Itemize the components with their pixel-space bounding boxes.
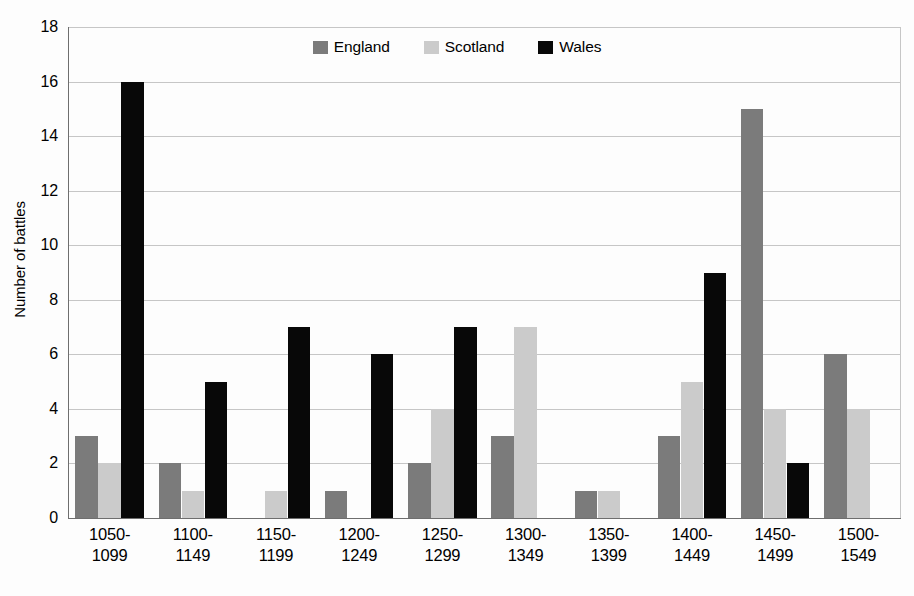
x-axis-ticks: 1050-10991100-11491150-11991200-12491250… — [68, 524, 900, 584]
bar-group — [567, 27, 650, 518]
bar-england-1300-1349[interactable] — [491, 436, 514, 518]
y-tick-label: 16 — [12, 73, 58, 91]
x-tick-line1: 1050- — [89, 525, 130, 543]
bar-england-1200-1249[interactable] — [325, 491, 348, 518]
x-tick-label: 1200-1249 — [318, 524, 401, 566]
y-tick-label: 4 — [12, 400, 58, 418]
bar-scotland-1100-1149[interactable] — [182, 491, 205, 518]
bar-group — [318, 27, 401, 518]
bar-scotland-1450-1499[interactable] — [764, 409, 787, 518]
bar-scotland-1050-1099[interactable] — [98, 463, 121, 518]
bar-scotland-1250-1299[interactable] — [431, 409, 454, 518]
bar-england-1400-1449[interactable] — [658, 436, 681, 518]
bar-scotland-1400-1449[interactable] — [681, 382, 704, 518]
bar-wales-1050-1099[interactable] — [121, 82, 144, 518]
y-tick-label: 10 — [12, 236, 58, 254]
x-tick-label: 1250-1299 — [401, 524, 484, 566]
x-tick-line1: 1400- — [671, 525, 712, 543]
x-tick-line2: 1149 — [151, 545, 234, 566]
bar-scotland-1350-1399[interactable] — [598, 491, 621, 518]
x-tick-line1: 1250- — [422, 525, 463, 543]
x-tick-label: 1350-1399 — [567, 524, 650, 566]
bar-wales-1150-1199[interactable] — [288, 327, 311, 518]
bar-england-1350-1399[interactable] — [575, 491, 598, 518]
bar-wales-1400-1449[interactable] — [704, 273, 727, 519]
x-tick-line1: 1500- — [838, 525, 879, 543]
y-tick-label: 8 — [12, 291, 58, 309]
bar-scotland-1500-1549[interactable] — [847, 409, 870, 518]
x-tick-line2: 1249 — [318, 545, 401, 566]
bar-group — [484, 27, 567, 518]
x-tick-label: 1400-1449 — [650, 524, 733, 566]
y-tick-label: 2 — [12, 454, 58, 472]
bar-wales-1450-1499[interactable] — [787, 463, 810, 518]
bar-wales-1250-1299[interactable] — [454, 327, 477, 518]
x-tick-line1: 1200- — [339, 525, 380, 543]
x-tick-label: 1150-1199 — [234, 524, 317, 566]
x-tick-line2: 1199 — [234, 545, 317, 566]
y-tick-label: 6 — [12, 345, 58, 363]
bar-england-1100-1149[interactable] — [159, 463, 182, 518]
x-tick-line2: 1349 — [484, 545, 567, 566]
x-tick-line2: 1449 — [650, 545, 733, 566]
bar-group — [68, 27, 151, 518]
bar-scotland-1300-1349[interactable] — [514, 327, 537, 518]
x-tick-line2: 1399 — [567, 545, 650, 566]
bar-group — [234, 27, 317, 518]
bar-group — [650, 27, 733, 518]
x-tick-line1: 1350- — [588, 525, 629, 543]
bar-england-1500-1549[interactable] — [824, 354, 847, 518]
y-tick-label: 12 — [12, 182, 58, 200]
x-tick-line1: 1450- — [755, 525, 796, 543]
x-tick-label: 1300-1349 — [484, 524, 567, 566]
x-tick-label: 1450-1499 — [734, 524, 817, 566]
x-tick-line1: 1300- — [505, 525, 546, 543]
bar-scotland-1150-1199[interactable] — [265, 491, 288, 518]
x-tick-line2: 1549 — [817, 545, 900, 566]
x-tick-label: 1050-1099 — [68, 524, 151, 566]
y-axis-ticks: 181614121086420 — [0, 27, 58, 518]
bar-group — [817, 27, 900, 518]
x-tick-line2: 1499 — [734, 545, 817, 566]
y-tick-label: 0 — [12, 509, 58, 527]
x-tick-line1: 1150- — [256, 525, 296, 543]
bars-layer — [68, 27, 900, 518]
x-tick-label: 1500-1549 — [817, 524, 900, 566]
bar-chart: EnglandScotlandWales Number of battles 1… — [0, 0, 914, 596]
x-tick-line1: 1100- — [173, 525, 213, 543]
bar-england-1050-1099[interactable] — [75, 436, 98, 518]
y-tick-label: 14 — [12, 127, 58, 145]
bar-wales-1100-1149[interactable] — [205, 382, 228, 518]
x-tick-label: 1100-1149 — [151, 524, 234, 566]
x-tick-line2: 1099 — [68, 545, 151, 566]
bar-group — [151, 27, 234, 518]
bar-group — [401, 27, 484, 518]
bar-england-1250-1299[interactable] — [408, 463, 431, 518]
x-tick-line2: 1299 — [401, 545, 484, 566]
bar-england-1450-1499[interactable] — [741, 109, 764, 518]
bar-wales-1200-1249[interactable] — [371, 354, 394, 518]
x-axis-line — [68, 518, 901, 519]
plot-right-border — [900, 27, 901, 519]
y-tick-label: 18 — [12, 18, 58, 36]
bar-group — [734, 27, 817, 518]
